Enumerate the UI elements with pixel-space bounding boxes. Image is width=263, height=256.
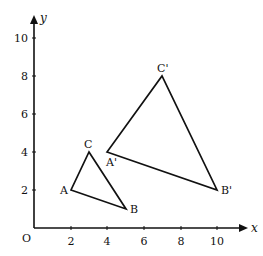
y-tick-label: 8 bbox=[21, 70, 28, 83]
triangle-a-prime-b-prime-c-prime bbox=[107, 76, 217, 190]
y-tick-label: 4 bbox=[21, 146, 28, 159]
y-tick-label: 10 bbox=[14, 32, 28, 45]
point-label-b-prime: B' bbox=[221, 184, 232, 197]
coordinate-plane: x y O 2 4 6 8 10 2 4 6 8 10 A B C A' B' … bbox=[0, 0, 263, 256]
y-tick-label: 2 bbox=[21, 184, 28, 197]
point-label-c: C bbox=[84, 138, 92, 151]
x-tick-label: 10 bbox=[210, 235, 224, 248]
origin-label: O bbox=[22, 232, 31, 245]
y-tick-label: 6 bbox=[21, 108, 28, 121]
point-label-a: A bbox=[59, 184, 69, 197]
y-ticks: 2 4 6 8 10 bbox=[14, 32, 36, 197]
triangle-abc bbox=[71, 152, 126, 209]
x-tick-label: 2 bbox=[68, 235, 75, 248]
x-axis-arrow-icon bbox=[239, 224, 248, 232]
x-axis-label: x bbox=[251, 221, 258, 235]
y-axis-arrow-icon bbox=[30, 15, 38, 24]
x-tick-label: 8 bbox=[178, 235, 185, 248]
point-label-c-prime: C' bbox=[157, 62, 168, 75]
axes bbox=[30, 15, 248, 232]
y-axis-label: y bbox=[39, 11, 47, 25]
x-ticks: 2 4 6 8 10 bbox=[68, 226, 225, 248]
x-tick-label: 6 bbox=[141, 235, 148, 248]
x-tick-label: 4 bbox=[104, 235, 111, 248]
point-label-b: B bbox=[130, 203, 138, 216]
point-label-a-prime: A' bbox=[105, 156, 117, 169]
